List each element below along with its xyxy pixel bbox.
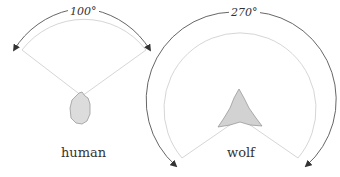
wolf-arrow-left <box>146 12 232 166</box>
human-view-cone <box>22 19 146 96</box>
fov-diagram <box>0 0 340 177</box>
human-head-icon <box>70 92 90 124</box>
wolf-head-icon <box>218 89 262 127</box>
human-arrow-left <box>14 10 70 50</box>
wolf-label: wolf <box>227 145 255 160</box>
human-field-of-view <box>14 10 150 124</box>
wolf-field-of-view <box>146 12 336 166</box>
human-label: human <box>61 145 106 160</box>
wolf-arrow-right <box>256 12 336 166</box>
human-angle-label: 100° <box>68 5 99 18</box>
wolf-angle-label: 270° <box>229 6 260 19</box>
